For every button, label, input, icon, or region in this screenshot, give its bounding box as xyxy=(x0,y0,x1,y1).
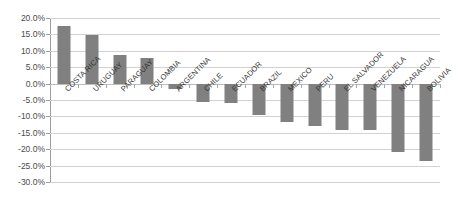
bar[interactable] xyxy=(336,84,349,130)
x-axis-tick xyxy=(245,84,246,88)
y-axis-tick xyxy=(46,100,50,101)
bar-slot xyxy=(273,18,301,182)
x-axis-tick xyxy=(440,84,441,88)
bar[interactable] xyxy=(141,58,154,83)
y-axis-tick xyxy=(46,149,50,150)
y-axis-tick-label: 15.0% xyxy=(1,30,45,39)
y-axis-tick-label: -15.0% xyxy=(1,129,45,138)
x-axis-tick xyxy=(217,84,218,88)
gridline xyxy=(50,182,440,183)
x-axis-tick xyxy=(301,84,302,88)
y-axis-tick-label: -5.0% xyxy=(1,96,45,105)
bar-slot xyxy=(245,18,273,182)
bar[interactable] xyxy=(57,26,70,83)
y-axis-tick xyxy=(46,166,50,167)
bar-slot xyxy=(78,18,106,182)
y-axis-tick-label: -10.0% xyxy=(1,112,45,121)
bar[interactable] xyxy=(280,84,293,123)
bar-slot xyxy=(412,18,440,182)
x-axis-tick xyxy=(384,84,385,88)
y-axis-tick-label: 0.0% xyxy=(1,79,45,88)
bar-slot xyxy=(161,18,189,182)
x-axis-tick xyxy=(106,84,107,88)
bar[interactable] xyxy=(420,84,433,161)
bar-slot xyxy=(189,18,217,182)
bar-slot xyxy=(50,18,78,182)
plot-area xyxy=(50,18,440,182)
x-axis-tick xyxy=(161,84,162,88)
bar-slot xyxy=(384,18,412,182)
x-axis-tick xyxy=(50,84,51,88)
bar[interactable] xyxy=(392,84,405,153)
bar[interactable] xyxy=(197,84,210,102)
y-axis-tick xyxy=(46,34,50,35)
bar-slot xyxy=(134,18,162,182)
bar[interactable] xyxy=(225,84,238,104)
y-axis-tick xyxy=(46,182,50,183)
y-axis-tick xyxy=(46,67,50,68)
y-axis-tick-label: -25.0% xyxy=(1,161,45,170)
x-axis-tick xyxy=(273,84,274,88)
y-axis-tick xyxy=(46,18,50,19)
y-axis-labels: 20.0%15.0%10.0%5.0%0.0%-5.0%-10.0%-15.0%… xyxy=(0,0,45,200)
y-axis-tick-label: -30.0% xyxy=(1,178,45,187)
bar[interactable] xyxy=(169,84,182,89)
y-axis-tick xyxy=(46,133,50,134)
bar-slot xyxy=(329,18,357,182)
bar[interactable] xyxy=(113,55,126,84)
y-axis-tick xyxy=(46,116,50,117)
x-axis-tick xyxy=(329,84,330,88)
y-axis-tick xyxy=(46,51,50,52)
x-axis-tick xyxy=(78,84,79,88)
bar-slot xyxy=(301,18,329,182)
x-axis-tick xyxy=(356,84,357,88)
y-axis-tick-label: 5.0% xyxy=(1,63,45,72)
bar-slot xyxy=(106,18,134,182)
x-axis-tick xyxy=(189,84,190,88)
bar[interactable] xyxy=(252,84,265,115)
y-axis-tick-label: -20.0% xyxy=(1,145,45,154)
bar[interactable] xyxy=(85,35,98,84)
y-axis-tick-label: 20.0% xyxy=(1,14,45,23)
y-axis-tick xyxy=(46,84,50,85)
bar[interactable] xyxy=(364,84,377,131)
bar[interactable] xyxy=(308,84,321,127)
x-axis-tick xyxy=(134,84,135,88)
x-axis-tick xyxy=(412,84,413,88)
bar-slot xyxy=(217,18,245,182)
bar-slot xyxy=(356,18,384,182)
y-axis-tick-label: 10.0% xyxy=(1,47,45,56)
